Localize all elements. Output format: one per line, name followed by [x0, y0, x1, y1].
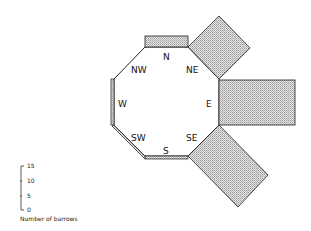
scale-caption: Number of barrows — [20, 215, 78, 222]
label-e: E — [206, 99, 212, 109]
label-s: S — [163, 146, 169, 156]
scale-tick-10: 10 — [27, 177, 35, 184]
scale-tick-5: 5 — [27, 192, 31, 199]
label-se: SE — [186, 133, 198, 143]
scale-tick-15: 15 — [27, 162, 35, 169]
bar-s — [145, 156, 188, 159]
scale-bar: 15 10 5 0 Number of barrows — [20, 162, 78, 222]
rose-diagram: N NE E SE S SW W NW 15 10 5 0 Number of … — [0, 0, 311, 231]
bar-se — [188, 125, 268, 207]
bar-w — [111, 79, 114, 125]
bar-n — [145, 36, 188, 47]
label-w: W — [118, 99, 127, 109]
label-n: N — [163, 52, 170, 62]
bar-e — [219, 80, 295, 125]
label-sw: SW — [131, 133, 146, 143]
scale-tick-0: 0 — [27, 206, 31, 213]
label-ne: NE — [186, 65, 199, 75]
octagon-outline — [114, 47, 219, 156]
label-nw: NW — [131, 65, 147, 75]
